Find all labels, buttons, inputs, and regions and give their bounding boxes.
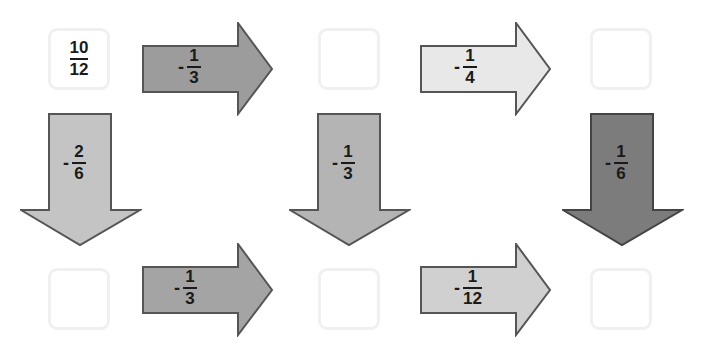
value-box-r1c2[interactable]	[318, 28, 380, 90]
numerator: 1	[468, 268, 477, 286]
fraction: 2 6	[72, 143, 86, 183]
arrow-right-icon	[142, 22, 274, 116]
numerator: 2	[74, 143, 83, 161]
arrow-label: - 1 6	[605, 143, 628, 183]
value-box-r2c1[interactable]	[48, 268, 110, 330]
value-box-r1c3[interactable]	[590, 28, 652, 90]
fraction: 1 3	[183, 268, 197, 308]
numerator: 1	[465, 47, 474, 65]
right-arrow-bottom-right: - 1 12	[420, 243, 552, 337]
denominator: 4	[465, 69, 474, 87]
arrow-label: - 1 12	[454, 268, 482, 308]
down-arrow-right: - 1 6	[562, 113, 684, 247]
right-arrow-bottom-left: - 1 3	[142, 243, 274, 337]
fraction: 1 3	[187, 47, 201, 87]
numerator: 1	[189, 47, 198, 65]
fraction: 1 4	[463, 47, 477, 87]
denominator: 12	[70, 61, 89, 79]
denominator: 6	[74, 165, 83, 183]
numerator: 10	[70, 39, 89, 57]
numerator: 1	[185, 268, 194, 286]
value-box-r2c3[interactable]	[590, 268, 652, 330]
arrow-right-icon	[420, 22, 552, 116]
arrow-label: - 1 4	[454, 47, 477, 87]
numerator: 1	[343, 143, 352, 161]
value-box-r2c2[interactable]	[318, 268, 380, 330]
denominator: 3	[189, 69, 198, 87]
arrow-right-icon	[420, 243, 552, 337]
denominator: 12	[463, 290, 482, 308]
denominator: 3	[343, 165, 352, 183]
arrow-label: - 1 3	[332, 143, 355, 183]
denominator: 3	[185, 290, 194, 308]
denominator: 6	[616, 165, 625, 183]
arrow-label: - 2 6	[63, 143, 86, 183]
numerator: 1	[616, 143, 625, 161]
right-arrow-top-left: - 1 3	[142, 22, 274, 116]
down-arrow-left: - 2 6	[20, 113, 142, 247]
down-arrow-middle: - 1 3	[289, 113, 411, 247]
fraction: 1 3	[341, 143, 355, 183]
arrow-right-icon	[142, 243, 274, 337]
fraction: 1 12	[463, 268, 482, 308]
arrow-label: - 1 3	[178, 47, 201, 87]
right-arrow-top-right: - 1 4	[420, 22, 552, 116]
arrow-label: - 1 3	[174, 268, 197, 308]
fraction: 10 12	[70, 39, 89, 79]
value-box-r1c1[interactable]: 10 12	[48, 28, 110, 90]
fraction: 1 6	[614, 143, 628, 183]
